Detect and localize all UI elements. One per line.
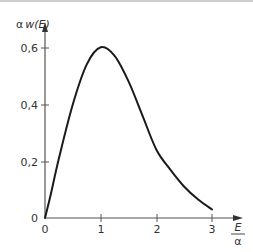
y-axis-title-main: w(E) [25,18,50,31]
x-axis-title-denominator: α [234,235,241,248]
y-tick-label-0: 0 [31,212,38,225]
y-tick-label-04: 0,4 [21,99,39,112]
x-tick-label-0: 0 [42,223,49,236]
x-tick-label-1: 1 [98,223,105,236]
data-curve [45,47,212,218]
x-tick-label-3: 3 [209,223,216,236]
x-tick-label-2: 2 [154,223,161,236]
y-axis-title: αw(E) [16,18,50,31]
y-tick-label-06: 0,6 [21,42,39,55]
chart: 0,6 0,4 0,2 0 0 1 2 3 αw(E) E α [0,0,253,252]
x-axis-title-numerator: E [235,221,242,234]
y-tick-label-02: 0,2 [21,156,39,169]
y-axis-title-prefix: α [16,18,23,31]
